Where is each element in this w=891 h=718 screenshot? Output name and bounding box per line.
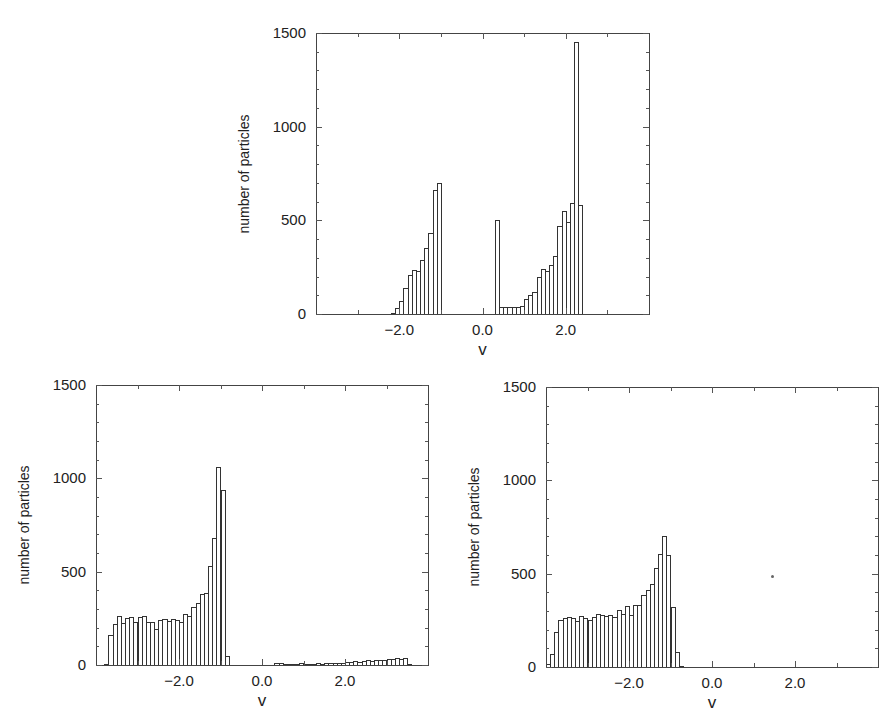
plot-frame (546, 387, 879, 668)
x-tick (304, 661, 305, 665)
plot-frame (96, 385, 429, 666)
y-tick (422, 572, 428, 573)
y-tick (546, 443, 549, 444)
x-tick (387, 661, 388, 665)
y-tick (316, 108, 319, 109)
x-tick (441, 33, 442, 37)
y-tick (646, 295, 649, 296)
y-tick (96, 516, 99, 517)
y-tick (546, 406, 549, 407)
y-tick (316, 70, 319, 71)
x-tick (262, 659, 263, 665)
y-tick (546, 480, 552, 481)
y-tick (425, 441, 428, 442)
y-axis-label: number of particles (16, 425, 32, 625)
y-tick (96, 478, 102, 479)
y-tick (546, 574, 552, 575)
y-tick (646, 164, 649, 165)
y-tick (425, 590, 428, 591)
y-tick (422, 385, 428, 386)
y-tick (316, 52, 319, 53)
y-tick (646, 202, 649, 203)
x-tick-label: −2.0 (369, 322, 429, 338)
y-tick (875, 555, 878, 556)
y-tick (316, 239, 319, 240)
y-tick (646, 70, 649, 71)
y-axis-label: number of particles (466, 427, 482, 627)
y-tick-label: 0 (256, 306, 306, 322)
x-tick-label: 0.0 (682, 675, 742, 691)
y-tick (872, 480, 878, 481)
x-tick (345, 385, 346, 391)
y-tick (872, 667, 878, 668)
x-tick-label: 0.0 (232, 673, 292, 689)
x-tick (179, 659, 180, 665)
x-tick (712, 661, 713, 667)
x-tick-label: −2.0 (149, 673, 209, 689)
y-tick (425, 422, 428, 423)
x-tick (358, 33, 359, 37)
y-tick-label: 1000 (256, 119, 306, 135)
x-tick (304, 385, 305, 389)
y-tick (875, 424, 878, 425)
x-tick (399, 308, 400, 314)
y-tick (316, 183, 319, 184)
y-tick (646, 52, 649, 53)
x-axis-label: v (692, 693, 732, 713)
y-tick (316, 220, 322, 221)
x-tick (138, 661, 139, 665)
y-tick (316, 277, 319, 278)
x-tick (754, 387, 755, 391)
y-tick (646, 277, 649, 278)
y-tick (96, 441, 99, 442)
x-tick (221, 661, 222, 665)
y-tick (546, 462, 549, 463)
y-tick (546, 424, 549, 425)
y-tick (425, 460, 428, 461)
y-tick (425, 646, 428, 647)
y-tick (546, 630, 549, 631)
y-tick-label: 0 (486, 659, 536, 675)
y-tick (875, 462, 878, 463)
y-tick-label: 1500 (486, 379, 536, 395)
x-tick (387, 385, 388, 389)
x-tick (566, 308, 567, 314)
y-tick (646, 258, 649, 259)
y-tick (96, 572, 102, 573)
x-tick (221, 385, 222, 389)
y-tick (872, 574, 878, 575)
y-tick (425, 609, 428, 610)
x-tick (754, 663, 755, 667)
x-tick (262, 385, 263, 391)
y-tick (875, 592, 878, 593)
y-tick (96, 422, 99, 423)
y-tick (643, 33, 649, 34)
y-tick-label: 1500 (36, 377, 86, 393)
y-tick (316, 89, 319, 90)
y-tick (425, 628, 428, 629)
x-tick (671, 387, 672, 391)
y-tick (875, 536, 878, 537)
y-tick-label: 1500 (256, 25, 306, 41)
y-tick (546, 555, 549, 556)
y-tick (425, 534, 428, 535)
x-tick-label: −2.0 (599, 675, 659, 691)
y-tick-label: 1000 (486, 472, 536, 488)
y-tick (422, 478, 428, 479)
y-tick (96, 460, 99, 461)
y-tick (875, 443, 878, 444)
y-tick-label: 500 (36, 564, 86, 580)
x-tick (483, 308, 484, 314)
y-tick (546, 499, 549, 500)
y-tick (96, 646, 99, 647)
y-tick (316, 127, 322, 128)
y-tick (316, 202, 319, 203)
x-tick (566, 33, 567, 39)
x-axis-label: v (242, 691, 282, 711)
x-tick-label: 2.0 (765, 675, 825, 691)
y-tick (643, 127, 649, 128)
y-tick (96, 404, 99, 405)
y-tick (316, 164, 319, 165)
y-tick (643, 220, 649, 221)
y-tick (646, 145, 649, 146)
